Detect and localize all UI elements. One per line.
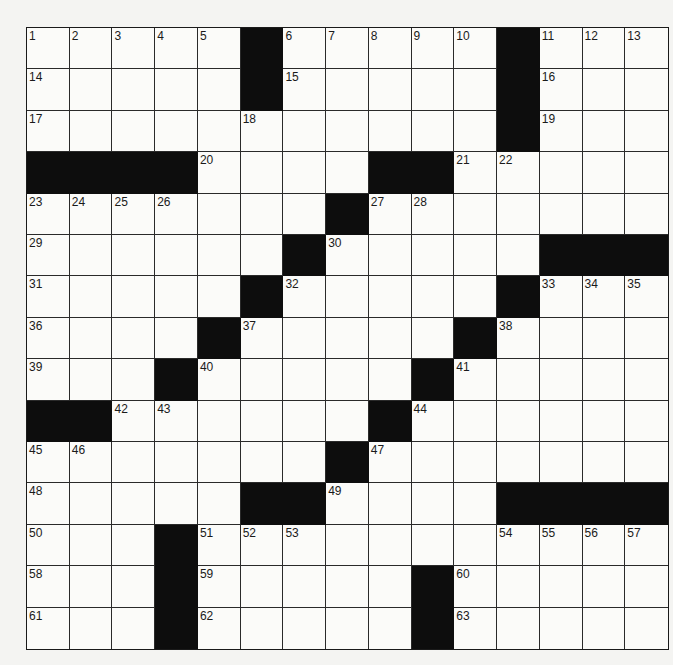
answer-cell[interactable]: [112, 318, 155, 359]
answer-cell[interactable]: 54: [497, 525, 540, 566]
answer-cell[interactable]: [112, 276, 155, 317]
answer-cell[interactable]: [326, 152, 369, 193]
answer-cell[interactable]: 15: [283, 69, 326, 110]
answer-cell[interactable]: [540, 152, 583, 193]
answer-cell[interactable]: [583, 359, 626, 400]
answer-cell[interactable]: 24: [70, 194, 113, 235]
answer-cell[interactable]: 29: [27, 235, 70, 276]
answer-cell[interactable]: [454, 194, 497, 235]
answer-cell[interactable]: 63: [454, 608, 497, 649]
answer-cell[interactable]: 4: [155, 28, 198, 69]
answer-cell[interactable]: [583, 566, 626, 607]
answer-cell[interactable]: [369, 235, 412, 276]
answer-cell[interactable]: [625, 566, 668, 607]
answer-cell[interactable]: [625, 152, 668, 193]
answer-cell[interactable]: [454, 525, 497, 566]
answer-cell[interactable]: [497, 401, 540, 442]
answer-cell[interactable]: [412, 525, 455, 566]
answer-cell[interactable]: [454, 442, 497, 483]
answer-cell[interactable]: [412, 69, 455, 110]
answer-cell[interactable]: 12: [583, 28, 626, 69]
answer-cell[interactable]: [198, 235, 241, 276]
answer-cell[interactable]: [540, 194, 583, 235]
answer-cell[interactable]: 36: [27, 318, 70, 359]
answer-cell[interactable]: [540, 401, 583, 442]
answer-cell[interactable]: [369, 608, 412, 649]
answer-cell[interactable]: [326, 318, 369, 359]
answer-cell[interactable]: 27: [369, 194, 412, 235]
answer-cell[interactable]: [369, 525, 412, 566]
answer-cell[interactable]: 42: [112, 401, 155, 442]
answer-cell[interactable]: [70, 525, 113, 566]
answer-cell[interactable]: 38: [497, 318, 540, 359]
answer-cell[interactable]: 49: [326, 483, 369, 524]
answer-cell[interactable]: 31: [27, 276, 70, 317]
answer-cell[interactable]: [70, 359, 113, 400]
answer-cell[interactable]: [198, 401, 241, 442]
answer-cell[interactable]: [155, 318, 198, 359]
answer-cell[interactable]: [112, 442, 155, 483]
answer-cell[interactable]: [198, 442, 241, 483]
answer-cell[interactable]: [198, 483, 241, 524]
answer-cell[interactable]: [326, 525, 369, 566]
answer-cell[interactable]: 30: [326, 235, 369, 276]
answer-cell[interactable]: 13: [625, 28, 668, 69]
answer-cell[interactable]: [540, 442, 583, 483]
answer-cell[interactable]: [540, 318, 583, 359]
answer-cell[interactable]: [155, 442, 198, 483]
answer-cell[interactable]: 22: [497, 152, 540, 193]
answer-cell[interactable]: [412, 483, 455, 524]
answer-cell[interactable]: [326, 566, 369, 607]
answer-cell[interactable]: [70, 608, 113, 649]
answer-cell[interactable]: [369, 566, 412, 607]
answer-cell[interactable]: [70, 318, 113, 359]
answer-cell[interactable]: [369, 276, 412, 317]
answer-cell[interactable]: 48: [27, 483, 70, 524]
answer-cell[interactable]: [283, 111, 326, 152]
answer-cell[interactable]: [198, 276, 241, 317]
answer-cell[interactable]: [241, 235, 284, 276]
answer-cell[interactable]: [198, 194, 241, 235]
answer-cell[interactable]: [155, 483, 198, 524]
answer-cell[interactable]: 50: [27, 525, 70, 566]
answer-cell[interactable]: [112, 608, 155, 649]
answer-cell[interactable]: [540, 359, 583, 400]
answer-cell[interactable]: 10: [454, 28, 497, 69]
answer-cell[interactable]: [155, 111, 198, 152]
answer-cell[interactable]: [583, 401, 626, 442]
answer-cell[interactable]: [283, 152, 326, 193]
answer-cell[interactable]: [283, 566, 326, 607]
answer-cell[interactable]: [454, 69, 497, 110]
answer-cell[interactable]: 1: [27, 28, 70, 69]
answer-cell[interactable]: 46: [70, 442, 113, 483]
answer-cell[interactable]: [241, 401, 284, 442]
answer-cell[interactable]: [412, 318, 455, 359]
answer-cell[interactable]: 52: [241, 525, 284, 566]
answer-cell[interactable]: [155, 69, 198, 110]
answer-cell[interactable]: [112, 525, 155, 566]
answer-cell[interactable]: [369, 69, 412, 110]
answer-cell[interactable]: [70, 483, 113, 524]
answer-cell[interactable]: [241, 359, 284, 400]
answer-cell[interactable]: 28: [412, 194, 455, 235]
answer-cell[interactable]: [412, 235, 455, 276]
answer-cell[interactable]: [497, 359, 540, 400]
answer-cell[interactable]: [112, 69, 155, 110]
answer-cell[interactable]: [540, 608, 583, 649]
answer-cell[interactable]: [241, 152, 284, 193]
answer-cell[interactable]: [412, 442, 455, 483]
answer-cell[interactable]: [625, 608, 668, 649]
answer-cell[interactable]: [583, 318, 626, 359]
answer-cell[interactable]: [112, 111, 155, 152]
answer-cell[interactable]: 40: [198, 359, 241, 400]
answer-cell[interactable]: [625, 69, 668, 110]
answer-cell[interactable]: 53: [283, 525, 326, 566]
answer-cell[interactable]: [625, 194, 668, 235]
answer-cell[interactable]: 44: [412, 401, 455, 442]
answer-cell[interactable]: 3: [112, 28, 155, 69]
answer-cell[interactable]: 34: [583, 276, 626, 317]
answer-cell[interactable]: 56: [583, 525, 626, 566]
answer-cell[interactable]: [625, 111, 668, 152]
answer-cell[interactable]: [625, 401, 668, 442]
answer-cell[interactable]: [369, 111, 412, 152]
